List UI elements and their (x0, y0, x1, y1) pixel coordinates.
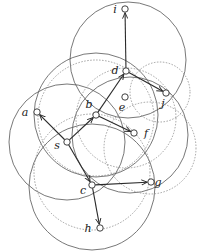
node-a: a (22, 106, 40, 119)
edge-s-to-c (69, 145, 91, 182)
node-label: i (113, 3, 117, 16)
node-f: f (131, 127, 150, 140)
node-b: b (85, 98, 99, 118)
node-circle-icon (64, 139, 70, 145)
node-h: h (84, 222, 103, 235)
node-d: d (111, 64, 129, 77)
node-circle-icon (148, 179, 154, 185)
graph-diagram: idjeabfscgh (0, 0, 198, 251)
node-j: j (158, 90, 169, 110)
node-label: s (54, 139, 60, 152)
node-label: d (111, 64, 118, 77)
node-s: s (54, 139, 70, 152)
node-label: h (84, 222, 91, 235)
node-label: g (154, 176, 161, 189)
node-circle-icon (97, 225, 103, 231)
node-circle-icon (93, 112, 99, 118)
edge-c-to-h (93, 188, 100, 224)
node-e: e (119, 94, 128, 114)
node-circle-icon (89, 182, 95, 188)
node-circle-icon (131, 130, 137, 136)
node-label: f (143, 127, 150, 140)
node-label: c (80, 184, 86, 197)
node-circle-icon (123, 68, 129, 74)
node-label: e (119, 101, 126, 114)
edge-s-to-a (40, 115, 65, 140)
edge-d-to-i (125, 13, 126, 68)
node-circle-icon (34, 109, 40, 115)
node-circle-icon (122, 6, 128, 12)
directed-edges (40, 13, 163, 225)
edge-s-to-b (69, 118, 93, 140)
node-label: j (158, 97, 165, 110)
coverage-circle-dashed (130, 62, 190, 122)
coverage-circles (9, 2, 196, 250)
edge-b-to-f (99, 116, 131, 131)
node-label: b (85, 98, 92, 111)
edge-c-to-g (95, 182, 147, 185)
node-i: i (113, 3, 128, 16)
node-label: a (22, 106, 29, 119)
node-circle-icon (122, 94, 128, 100)
edge-d-to-j (129, 73, 163, 92)
diagram-canvas: idjeabfscgh (0, 0, 198, 251)
node-circle-icon (163, 90, 169, 96)
coverage-circle-solid (72, 77, 188, 193)
